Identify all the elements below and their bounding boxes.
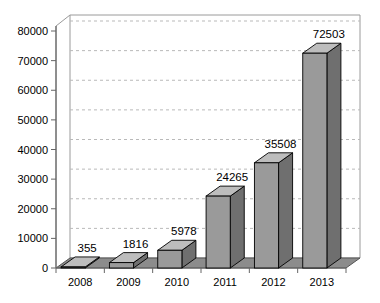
- x-axis: 200820092010201120122013: [56, 268, 346, 288]
- x-tick-labels: 200820092010201120122013: [68, 276, 334, 288]
- bar-value-label: 72503: [313, 28, 345, 40]
- x-tick-label: 2013: [310, 276, 334, 288]
- y-tick-label: 30000: [17, 173, 48, 185]
- bar-value-label: 1816: [123, 238, 149, 250]
- y-tick-label: 60000: [17, 84, 48, 96]
- bar-front-face: [303, 53, 327, 268]
- y-tick-label: 50000: [17, 114, 48, 126]
- x-tick-marks: [56, 268, 346, 273]
- bar-chart: 0100002000030000400005000060000700008000…: [0, 0, 380, 303]
- bar-value-label: 5978: [171, 225, 197, 237]
- depth-edge-top-left: [56, 15, 70, 26]
- bar-side-face: [279, 153, 293, 268]
- x-tick-label: 2012: [261, 276, 285, 288]
- y-tick-label: 40000: [17, 144, 48, 156]
- bar: [303, 43, 341, 268]
- bar-front-face: [158, 250, 182, 268]
- y-tick-label: 70000: [17, 55, 48, 67]
- chart-canvas: 0100002000030000400005000060000700008000…: [0, 0, 380, 303]
- y-tick-label: 0: [42, 262, 48, 274]
- bar-front-face: [254, 163, 278, 268]
- y-tick-label: 20000: [17, 203, 48, 215]
- bar-value-label: 35508: [265, 138, 297, 150]
- bar-value-label: 355: [78, 242, 97, 254]
- y-tick-label: 10000: [17, 232, 48, 244]
- bar-value-label: 24265: [216, 171, 248, 183]
- x-tick-label: 2009: [116, 276, 140, 288]
- bar: [206, 186, 244, 268]
- y-tick-marks: [51, 31, 56, 268]
- y-tick-label: 80000: [17, 25, 48, 37]
- bar-side-face: [327, 43, 341, 268]
- x-tick-label: 2010: [165, 276, 189, 288]
- bar-front-face: [61, 267, 85, 268]
- x-tick-label: 2008: [68, 276, 92, 288]
- bar-front-face: [109, 263, 133, 268]
- y-axis: 0100002000030000400005000060000700008000…: [17, 25, 56, 274]
- x-tick-label: 2011: [213, 276, 237, 288]
- bar: [254, 153, 292, 268]
- bar-front-face: [206, 196, 230, 268]
- bar-side-face: [230, 186, 244, 268]
- y-tick-labels: 0100002000030000400005000060000700008000…: [17, 25, 48, 274]
